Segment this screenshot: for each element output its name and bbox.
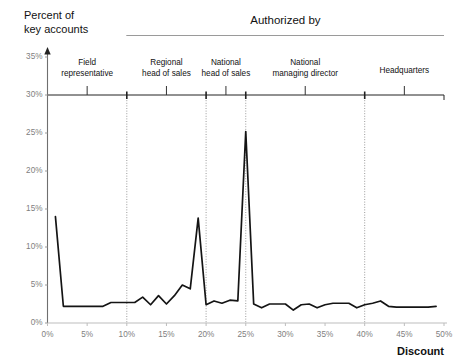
axis-lines xyxy=(44,47,447,323)
category-divider-lines xyxy=(127,92,365,324)
axis-ticks xyxy=(45,57,444,326)
plot-area xyxy=(0,0,472,361)
chart-container: Percent of key accounts Authorized by Fi… xyxy=(0,0,472,361)
y-axis-arrowhead xyxy=(44,47,50,55)
